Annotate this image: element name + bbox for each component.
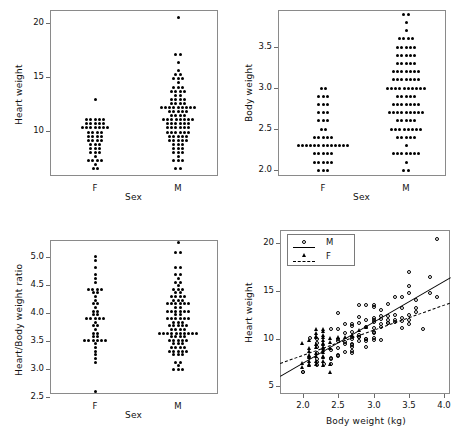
dotplot-point <box>407 169 410 172</box>
x-tick-mark <box>338 394 339 398</box>
y-tick-mark <box>274 170 278 171</box>
dotplot-point <box>179 306 182 309</box>
y-tick-mark <box>274 129 278 130</box>
dotplot-point <box>179 295 182 298</box>
dotplot-point <box>87 135 90 138</box>
dotplot-point <box>326 144 329 147</box>
dotplot-point <box>181 350 184 353</box>
dotplot-point <box>183 114 186 117</box>
legend-entry-m[interactable]: M <box>293 242 353 252</box>
dotplot-point <box>179 273 182 276</box>
dotplot-point <box>322 136 325 139</box>
scatter-point-m <box>372 303 376 307</box>
dotplot-point <box>334 144 337 147</box>
y-tick-label: 3.5 <box>246 41 272 51</box>
dotplot-point <box>179 332 182 335</box>
dotplot-point <box>179 114 182 117</box>
dotplot-point <box>183 295 186 298</box>
dotplot-point <box>181 324 184 327</box>
dotplot-point <box>189 106 192 109</box>
scatter-point-m <box>336 353 340 357</box>
dotplot-point <box>179 310 182 313</box>
x-tick-mark <box>303 394 304 398</box>
dotplot-point <box>170 90 173 93</box>
dotplot-point <box>403 87 406 90</box>
dotplot-point <box>94 122 97 125</box>
dotplot-point <box>407 87 410 90</box>
dotplot-point <box>158 332 161 335</box>
y-tick-label: 4.5 <box>18 279 44 289</box>
x-tick-label: 2.0 <box>289 400 317 410</box>
dotplot-point <box>177 368 180 371</box>
dotplot-point <box>409 54 412 57</box>
scatter-point-f <box>328 336 332 340</box>
dotplot-point <box>413 46 416 49</box>
category-label-f: F <box>81 183 109 193</box>
dotplot-point <box>185 324 188 327</box>
dotplot-point <box>185 106 188 109</box>
dotplot-point <box>181 151 184 154</box>
dotplot-point <box>417 111 420 114</box>
dotplot-point <box>191 118 194 121</box>
dotplot-point <box>179 102 182 105</box>
dotplot-point <box>96 313 99 316</box>
dotplot-point <box>326 169 329 172</box>
dotplot-point <box>100 339 103 342</box>
legend-entry-f[interactable]: F <box>293 256 353 266</box>
dotplot-point <box>405 103 408 106</box>
dotplot-point <box>405 152 408 155</box>
y-tick-mark <box>46 397 50 398</box>
dotplot-point <box>413 136 416 139</box>
dotplot-point <box>179 328 182 331</box>
dotplot-point <box>166 131 169 134</box>
legend-box[interactable]: M F <box>287 234 355 266</box>
dotplot-point <box>100 139 103 142</box>
plot-area-3 <box>50 240 218 394</box>
dotplot-point <box>175 118 178 121</box>
dotplot-point <box>170 310 173 313</box>
scatter-point-m <box>315 341 319 345</box>
y-tick-mark <box>46 341 50 342</box>
dotplot-point <box>177 353 180 356</box>
dotplot-point <box>92 313 95 316</box>
open-circle-icon <box>302 240 306 244</box>
scatter-point-m <box>379 308 383 312</box>
dotplot-point <box>413 111 416 114</box>
dotplot-point <box>98 118 101 121</box>
dotplot-point <box>179 302 182 305</box>
y-tick-label: 15 <box>252 285 274 295</box>
dotplot-point <box>179 73 182 76</box>
scatter-point-m <box>393 313 397 317</box>
dotplot-point <box>177 135 180 138</box>
x-tick-label: 3.5 <box>395 400 423 410</box>
plot-area-1 <box>50 10 218 176</box>
scatter-point-f <box>314 327 318 331</box>
dotplot-point <box>181 106 184 109</box>
y-axis-title-2: Body weight <box>244 64 254 122</box>
dotplot-point <box>419 87 422 90</box>
dotplot-point <box>92 324 95 327</box>
panel-heart-body-ratio-by-sex: Heart/Body weight ratio Sex 2.53.03.54.0… <box>0 218 232 435</box>
dotplot-point <box>177 139 180 142</box>
scatter-point-m <box>308 336 312 340</box>
legend-label-f: F <box>326 251 331 261</box>
dotplot-point <box>94 306 97 309</box>
dotplot-point <box>403 128 406 131</box>
dotplot-point <box>181 110 184 113</box>
category-label-m: M <box>392 183 420 193</box>
dotplot-point <box>183 98 186 101</box>
scatter-point-m <box>386 318 390 322</box>
dotplot-point <box>183 118 186 121</box>
dotplot-point <box>177 143 180 146</box>
dotplot-point <box>96 159 99 162</box>
dotplot-point <box>409 46 412 49</box>
scatter-point-m <box>329 356 333 360</box>
dotplot-point <box>411 128 414 131</box>
dotplot-point <box>181 368 184 371</box>
dotplot-point <box>191 332 194 335</box>
dotplot-point <box>96 335 99 338</box>
dotplot-point <box>179 122 182 125</box>
dotplot-point <box>94 321 97 324</box>
dotplot-point <box>94 361 97 364</box>
dotplot-point <box>177 155 180 158</box>
